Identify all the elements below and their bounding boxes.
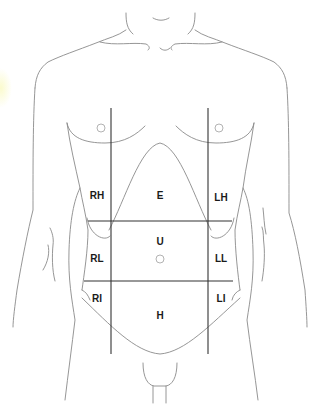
region-label-u: U (156, 237, 163, 247)
region-label-rl: RL (90, 254, 103, 264)
left-flank (80, 188, 88, 290)
body-outline (13, 13, 307, 403)
region-label-h: H (156, 311, 163, 321)
neck-right-line (188, 13, 195, 34)
left-clavicle (100, 42, 149, 50)
right-shoulder (195, 30, 287, 88)
torso-diagram (0, 0, 322, 413)
left-nipple (97, 124, 105, 132)
right-nipple (215, 124, 223, 132)
left-arm-inner (50, 228, 55, 281)
left-torso-side (65, 123, 80, 400)
left-shoulder (35, 30, 126, 88)
right-pectoral (176, 123, 254, 143)
region-label-e: E (157, 191, 164, 201)
right-arm-outer (287, 88, 307, 327)
right-torso-side (243, 123, 258, 400)
region-label-lh: LH (214, 193, 227, 203)
throat-line (153, 18, 169, 20)
right-arm-inner (262, 227, 264, 281)
left-elbow-crease (43, 245, 49, 270)
umbilicus (156, 255, 164, 263)
neck-left-line (126, 13, 133, 34)
right-elbow-crease (263, 208, 266, 234)
region-label-ll: LL (215, 254, 227, 264)
left-arm-outer (13, 88, 35, 327)
left-hip-crease (82, 290, 90, 300)
groin-outline (143, 363, 177, 386)
right-clavicle (171, 42, 222, 50)
right-flank (235, 188, 243, 290)
region-label-li: LI (217, 294, 226, 304)
sternal-notch (160, 48, 170, 50)
costal-margin (109, 143, 211, 230)
left-pectoral (67, 123, 145, 143)
region-label-ri: RI (92, 294, 102, 304)
region-label-rh: RH (90, 191, 104, 201)
pelvic-curve (82, 298, 240, 354)
